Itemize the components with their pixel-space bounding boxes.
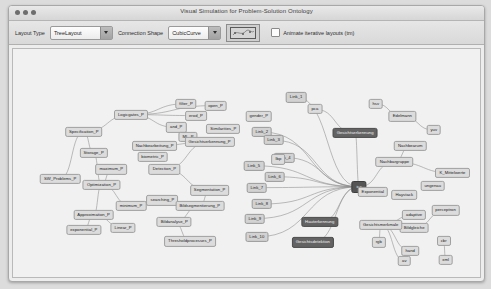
graph-node[interactable]: xml xyxy=(438,255,453,265)
graph-node[interactable]: perceptron xyxy=(431,205,460,215)
layout-preview-thumbnail[interactable] xyxy=(226,24,260,42)
graph-node[interactable]: adaptive xyxy=(402,210,426,220)
graph-node[interactable]: searching_P xyxy=(147,195,179,205)
graph-node[interactable]: Segmentation_P xyxy=(190,185,230,195)
graph-node[interactable]: Link_8 xyxy=(251,199,272,209)
animate-layouts-label: Animate iterative layouts (tm) xyxy=(283,30,354,36)
connection-shape-select[interactable]: CubicCurve xyxy=(168,26,221,40)
graph-node[interactable]: Exponential xyxy=(358,187,388,197)
graph-node[interactable]: Link_1 xyxy=(286,92,307,102)
graph-node[interactable]: cbr xyxy=(437,235,451,245)
graph-node[interactable]: Link_6 xyxy=(264,172,285,182)
graph-node[interactable]: Link_9 xyxy=(245,214,266,224)
graph-node[interactable]: Nachbearum xyxy=(394,141,426,151)
graph-edge xyxy=(296,97,359,186)
graph-node[interactable]: filter_P xyxy=(175,99,196,109)
graph-node[interactable]: Gesichtserkennung_P xyxy=(185,137,235,147)
layout-type-select[interactable]: TreeLayout xyxy=(50,26,113,40)
graph-node[interactable]: K_Mittelwerte xyxy=(435,168,469,178)
graph-node[interactable]: maximum_P xyxy=(95,164,127,174)
graph-node[interactable]: yuv xyxy=(426,125,441,135)
graph-node[interactable]: Hauterkennung xyxy=(301,217,338,227)
graph-node[interactable]: Nachbearbeitung_P xyxy=(132,141,178,151)
animate-layouts-checkbox[interactable]: Animate iterative layouts (tm) xyxy=(271,28,354,37)
graph-node[interactable]: Haystack xyxy=(391,190,417,200)
graph-node[interactable]: hand xyxy=(401,245,419,255)
graph-node[interactable]: minimum_P xyxy=(116,201,147,211)
graph-edge xyxy=(257,187,359,237)
graph-edge xyxy=(355,133,359,187)
window-title: Visual Simulation for Problem-Solution O… xyxy=(9,8,484,14)
graph-node[interactable]: Link_10 xyxy=(245,232,268,242)
graph-node[interactable]: Linear_P xyxy=(111,223,136,233)
toolbar: Layout Type TreeLayout Connection Shape … xyxy=(9,21,484,45)
chevron-down-icon xyxy=(208,27,220,39)
graph-node[interactable]: Gesichtsmerkmale xyxy=(359,220,402,230)
desktop-background: Visual Simulation for Problem-Solution O… xyxy=(0,0,491,289)
graph-node[interactable]: Storage_P xyxy=(79,148,107,158)
graph-node[interactable]: pca xyxy=(307,104,322,114)
application-window: Visual Simulation for Problem-Solution O… xyxy=(8,5,485,282)
graph-node[interactable]: Thresholdprocesses_P xyxy=(164,236,216,246)
chevron-down-icon xyxy=(100,27,112,39)
graph-node[interactable]: gender_P xyxy=(246,111,273,121)
preview-graph-icon xyxy=(227,25,259,41)
graph-node[interactable]: erod_P xyxy=(185,110,207,120)
layout-type-label: Layout Type xyxy=(15,30,45,36)
graph-node[interactable]: lbp xyxy=(272,154,286,164)
graph-node[interactable]: Logicgates_P xyxy=(114,110,148,120)
graph-node[interactable]: Approximation_P xyxy=(73,210,114,220)
graph-node[interactable]: Nachbargruppe xyxy=(376,157,414,167)
graph-canvas[interactable]: Logicgates_Pfilter_Popen_Perod_Pand_PML_… xyxy=(12,48,481,278)
graph-node[interactable]: Gesichtserkennung xyxy=(333,128,378,138)
graph-node[interactable]: hsv xyxy=(368,99,383,109)
graph-node[interactable]: biometric_P xyxy=(137,152,168,162)
graph-node[interactable]: Bildsegmentierung_P xyxy=(175,201,224,211)
graph-node[interactable]: rgb xyxy=(372,237,386,247)
graph-node[interactable]: Optimization_P xyxy=(83,180,120,190)
graph-node[interactable]: Bildanalyse_P xyxy=(157,217,192,227)
graph-edge xyxy=(274,140,360,187)
window-titlebar[interactable]: Visual Simulation for Problem-Solution O… xyxy=(9,6,484,21)
graph-node[interactable]: Detection_P xyxy=(149,164,180,174)
layout-type-value: TreeLayout xyxy=(54,30,82,36)
connection-shape-label: Connection Shape xyxy=(118,30,163,36)
graph-node[interactable]: ungenau xyxy=(420,181,445,191)
graph-node[interactable]: Gesichtsdetektion xyxy=(292,237,334,247)
graph-node[interactable]: Bildgleiche xyxy=(400,223,429,233)
graph-node[interactable]: SW_Problems_P xyxy=(40,173,81,183)
graph-node[interactable]: Link_5 xyxy=(244,161,265,171)
checkbox-icon[interactable] xyxy=(271,28,280,37)
graph-node[interactable]: Edelmann xyxy=(389,111,416,121)
graph-node[interactable]: Specification_P xyxy=(65,127,103,137)
graph-node[interactable]: open_P xyxy=(204,100,227,110)
graph-node[interactable]: av xyxy=(398,255,411,265)
graph-node[interactable]: Similarities_P xyxy=(206,124,240,134)
graph-node[interactable]: Link_3 xyxy=(263,135,284,145)
graph-node[interactable]: Link_7 xyxy=(246,183,267,193)
graph-node[interactable]: exponential_P xyxy=(66,224,101,234)
connection-shape-value: CubicCurve xyxy=(172,30,201,36)
